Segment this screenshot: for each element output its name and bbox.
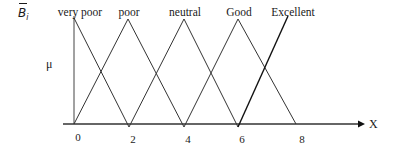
x-axis-arrow-icon bbox=[358, 121, 365, 128]
set-very-poor-line bbox=[74, 18, 129, 127]
x-tick-2: 2 bbox=[130, 134, 136, 145]
label-good: Good bbox=[226, 6, 252, 18]
set-poor-line bbox=[74, 19, 184, 127]
membership-plot bbox=[0, 0, 396, 146]
label-neutral: neutral bbox=[169, 6, 201, 18]
set-neutral-line bbox=[129, 19, 238, 127]
x-tick-8: 8 bbox=[299, 134, 305, 145]
x-tick-0: 0 bbox=[75, 132, 81, 143]
label-excellent: Excellent bbox=[271, 6, 314, 18]
y-axis-label: μ bbox=[46, 58, 52, 70]
tilde-bar bbox=[19, 3, 27, 4]
set-symbol: Bi bbox=[18, 6, 28, 22]
symbol-letter: B bbox=[18, 6, 26, 20]
x-tick-4: 4 bbox=[185, 134, 191, 145]
x-tick-6: 6 bbox=[239, 134, 245, 145]
symbol-subscript: i bbox=[26, 13, 28, 22]
x-axis-label: X bbox=[369, 118, 378, 130]
label-poor: poor bbox=[118, 6, 139, 18]
label-very-poor: very poor bbox=[58, 6, 102, 18]
